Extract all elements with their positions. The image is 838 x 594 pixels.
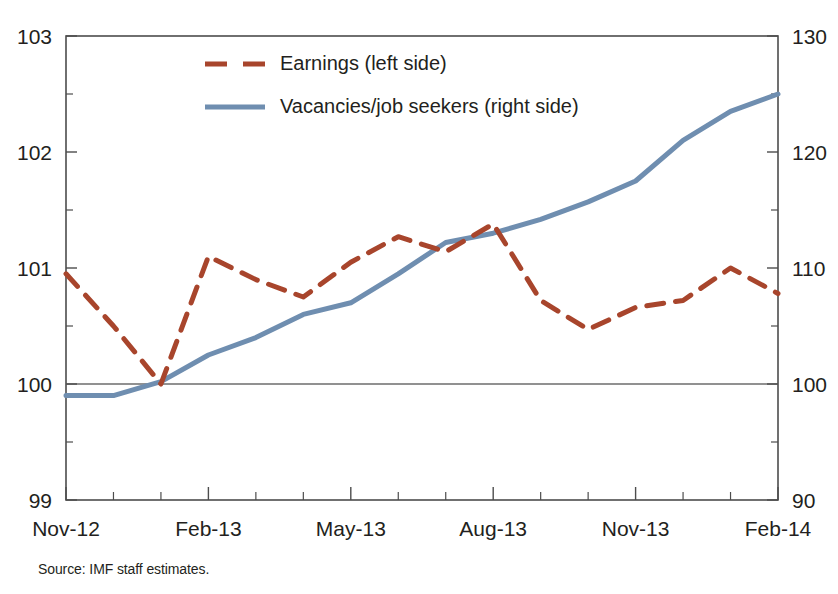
chart-canvas: 99100101102103 90100110120130 Nov-12Feb-… (0, 0, 838, 594)
x-tick-label: Feb-14 (745, 517, 812, 540)
x-tick-label: May-13 (316, 517, 386, 540)
right-tick-label: 100 (792, 373, 827, 396)
right-tick-label: 90 (792, 489, 815, 512)
right-axis-labels: 90100110120130 (792, 25, 827, 512)
left-tick-label: 102 (17, 141, 52, 164)
right-tick-label: 110 (792, 257, 825, 280)
chart-legend: Earnings (left side)Vacancies/job seeker… (205, 52, 579, 117)
legend-label: Vacancies/job seekers (right side) (280, 95, 579, 117)
chart-figure: 99100101102103 90100110120130 Nov-12Feb-… (0, 0, 838, 594)
x-tick-label: Feb-13 (175, 517, 242, 540)
left-tick-label: 99 (29, 489, 52, 512)
left-tick-label: 100 (17, 373, 52, 396)
right-axis-ticks (767, 36, 778, 500)
series-line-earnings (66, 224, 778, 384)
right-tick-label: 120 (792, 141, 827, 164)
left-axis-labels: 99100101102103 (17, 25, 52, 512)
x-tick-label: Nov-13 (602, 517, 670, 540)
left-tick-label: 101 (17, 257, 52, 280)
legend-label: Earnings (left side) (280, 52, 447, 74)
left-axis-ticks (66, 36, 77, 500)
legend-item: Earnings (left side) (205, 52, 447, 74)
x-tick-label: Nov-12 (32, 517, 100, 540)
right-tick-label: 130 (792, 25, 827, 48)
data-series (66, 94, 778, 396)
left-tick-label: 103 (17, 25, 52, 48)
x-axis-ticks (66, 487, 778, 500)
source-note: Source: IMF staff estimates. (38, 561, 209, 577)
x-tick-label: Aug-13 (459, 517, 527, 540)
x-axis-labels: Nov-12Feb-13May-13Aug-13Nov-13Feb-14 (32, 517, 811, 540)
legend-item: Vacancies/job seekers (right side) (205, 95, 579, 117)
